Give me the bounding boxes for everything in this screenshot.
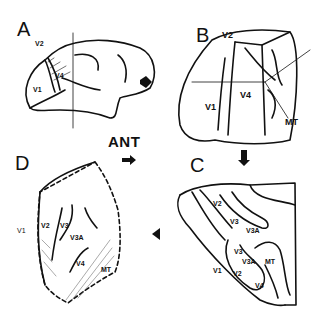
label-c-v3a: V3A <box>242 258 256 265</box>
label-c-v1: V1 <box>213 267 222 274</box>
label-d-mt: MT <box>101 266 111 273</box>
arrow-c-to-d <box>152 228 160 240</box>
label-a-v4: V4 <box>55 72 64 79</box>
label-c-v3a-top: V3A <box>246 227 260 234</box>
panel-a-letter: A <box>17 18 30 41</box>
label-d-v2: V2 <box>41 222 50 229</box>
label-b-v2: V2 <box>222 30 233 40</box>
panel-d-letter: D <box>15 152 29 175</box>
panel-c-letter: C <box>190 154 204 177</box>
panel-c-section <box>178 183 296 305</box>
panel-b-letter: B <box>196 24 209 47</box>
label-d-v4: V4 <box>76 260 85 267</box>
label-c-v3-top: V3 <box>230 218 239 225</box>
label-d-v3: V3 <box>60 222 69 229</box>
brain-diagram <box>0 0 320 323</box>
arrow-ant <box>122 155 136 165</box>
label-a-v1: V1 <box>33 86 42 93</box>
label-c-v4: V4 <box>255 282 264 289</box>
label-b-v4: V4 <box>240 90 251 100</box>
label-c-v3: V3 <box>234 248 243 255</box>
label-b-mt: MT <box>285 117 298 127</box>
label-d-v1: V1 <box>17 227 26 234</box>
arrow-b-to-c <box>238 150 250 166</box>
label-c-v2: V2 <box>233 270 242 277</box>
label-c-mt: MT <box>265 258 275 265</box>
label-c-v2-top: V2 <box>213 200 222 207</box>
panel-a-brain <box>26 40 154 118</box>
label-b-v1: V1 <box>205 102 216 112</box>
label-d-v3a: V3A <box>70 234 84 241</box>
label-a-v2: V2 <box>35 40 44 47</box>
panel-b-block <box>179 30 297 144</box>
anterior-label: ANT <box>108 133 140 150</box>
